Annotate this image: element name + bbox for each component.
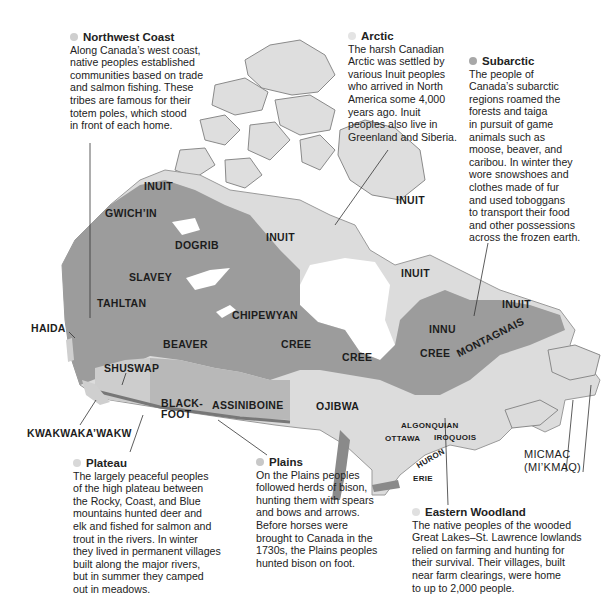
callout-title: Subarctic	[482, 55, 534, 68]
region-dot-icon	[256, 458, 264, 466]
region-dot-icon	[469, 57, 477, 65]
label-cree-east: CREE	[420, 348, 450, 359]
label-haida: HAIDA	[31, 323, 66, 334]
region-dot-icon	[412, 508, 420, 516]
label-kwakwakawakw: KWAKWAKA’WAKW	[27, 428, 132, 439]
callout-northwest-coast: Northwest Coast Along Canada’s west coas…	[70, 31, 203, 132]
region-dot-icon	[70, 33, 78, 41]
label-gwichin: GWICH’IN	[105, 208, 157, 219]
label-inuit-central: INUIT	[266, 232, 295, 243]
label-dogrib: DOGRIB	[175, 240, 219, 251]
label-cree-central: CREE	[342, 352, 372, 363]
callout-title: Eastern Woodland	[425, 506, 526, 519]
label-inuit-labrador: INUIT	[502, 299, 531, 310]
label-slavey: SLAVEY	[129, 272, 172, 283]
label-blackfoot: BLACK- FOOT	[161, 398, 203, 420]
region-dot-icon	[73, 459, 81, 467]
label-ojibwa: OJIBWA	[316, 401, 359, 412]
callout-arctic: Arctic The harsh Canadian Arctic was set…	[348, 30, 457, 143]
callout-body: The native peoples of the wooded Great L…	[412, 519, 582, 595]
label-cree-west: CREE	[281, 339, 311, 350]
callout-title: Arctic	[361, 30, 394, 43]
label-inuit-ungava: INUIT	[401, 268, 430, 279]
label-innu: INNU	[429, 324, 456, 335]
callout-plains: Plains On the Plains peoples followed he…	[256, 456, 377, 569]
label-micmac: MICMAC (MI’KMAQ)	[524, 448, 581, 474]
callout-body: The people of Canada’s subarctic regions…	[469, 68, 580, 244]
label-erie: ERIE	[413, 473, 433, 484]
region-dot-icon	[348, 32, 356, 40]
label-beaver: BEAVER	[163, 339, 208, 350]
label-chipewyan: CHIPEWYAN	[232, 310, 298, 321]
label-tahltan: TAHLTAN	[97, 298, 146, 309]
callout-plateau: Plateau The largely peaceful peoples of …	[73, 457, 221, 596]
callout-body: Along Canada’s west coast, native people…	[70, 44, 203, 132]
callout-body: The harsh Canadian Arctic was settled by…	[348, 43, 457, 144]
callout-title: Plateau	[86, 457, 127, 470]
label-inuit-northwest: INUIT	[144, 181, 173, 192]
label-shuswap: SHUSWAP	[104, 363, 159, 374]
callout-body: On the Plains peoples followed herds of …	[256, 469, 377, 570]
callout-title: Plains	[269, 456, 303, 469]
label-algonquian: ALGONQUIAN	[401, 420, 459, 431]
callout-body: The largely peaceful peoples of the high…	[73, 470, 221, 596]
label-inuit-baffin: INUIT	[396, 195, 425, 206]
callout-subarctic: Subarctic The people of Canada’s subarct…	[469, 55, 580, 244]
callout-eastern-woodland: Eastern Woodland The native peoples of t…	[412, 506, 582, 594]
label-iroquois: IROQUOIS	[434, 432, 476, 443]
label-assiniboine: ASSINIBOINE	[212, 400, 284, 411]
callout-title: Northwest Coast	[83, 31, 174, 44]
label-ottawa: OTTAWA	[385, 433, 420, 444]
